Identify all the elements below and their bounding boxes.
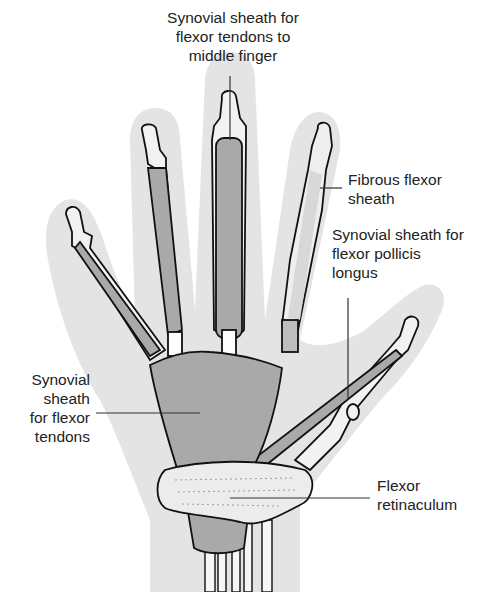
label-retinaculum: Flexor retinaculum [377, 476, 457, 514]
label-line: longus [332, 263, 464, 282]
label-line: tendons [10, 427, 90, 446]
label-line: middle finger [148, 46, 318, 65]
label-line: sheath [348, 189, 442, 208]
label-common-sheath: Synovial sheath for flexor tendons [10, 370, 90, 446]
label-line: Fibrous flexor [348, 170, 442, 189]
label-middle-finger-sheath: Synovial sheath for flexor tendons to mi… [148, 8, 318, 65]
label-line: Synovial [10, 370, 90, 389]
label-line: Flexor [377, 476, 457, 495]
label-pollicis-sheath: Synovial sheath for flexor pollicis long… [332, 225, 464, 282]
middle-finger [212, 91, 246, 360]
label-line: flexor pollicis [332, 244, 464, 263]
label-fibrous-sheath: Fibrous flexor sheath [348, 170, 442, 208]
label-line: flexor tendons to [148, 27, 318, 46]
label-line: for flexor [10, 408, 90, 427]
label-line: Synovial sheath for [332, 225, 464, 244]
label-line: sheath [10, 389, 90, 408]
label-line: Synovial sheath for [148, 8, 318, 27]
label-line: retinaculum [377, 495, 457, 514]
